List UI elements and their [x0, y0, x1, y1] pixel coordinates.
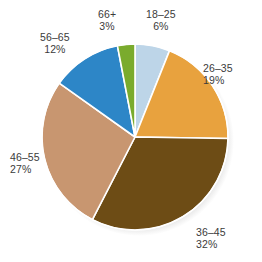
slice-label-category-56-65: 56–65: [40, 31, 70, 43]
slice-label-36-45: 36–4532%: [196, 226, 226, 250]
slice-label-value-26-35: 19%: [203, 74, 233, 86]
slice-label-66+: 66+3%: [98, 8, 116, 32]
slice-label-category-66+: 66+: [98, 8, 116, 20]
slice-label-value-36-45: 32%: [196, 238, 226, 250]
slice-label-18-25: 18–256%: [146, 8, 176, 32]
slice-label-value-66+: 3%: [98, 20, 116, 32]
slice-label-value-46-55: 27%: [10, 163, 40, 175]
slice-label-56-65: 56–6512%: [40, 31, 70, 55]
slice-label-value-18-25: 6%: [146, 20, 176, 32]
slice-label-26-35: 26–3519%: [203, 62, 233, 86]
slice-label-category-46-55: 46–55: [10, 151, 40, 163]
slice-label-value-56-65: 12%: [40, 43, 70, 55]
pie-chart-figure: 18–256%26–3519%36–4532%46–5527%56–6512%6…: [0, 0, 262, 262]
slice-label-category-26-35: 26–35: [203, 62, 233, 74]
slice-label-category-18-25: 18–25: [146, 8, 176, 20]
slice-label-category-36-45: 36–45: [196, 226, 226, 238]
slice-label-46-55: 46–5527%: [10, 151, 40, 175]
pie-slices-group: [42, 44, 228, 230]
